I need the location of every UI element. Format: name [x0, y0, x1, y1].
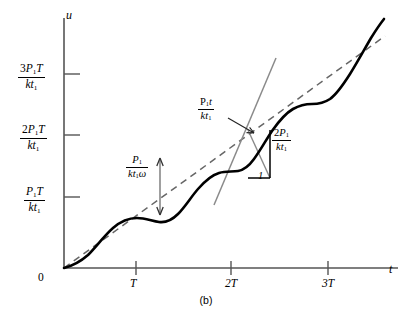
slope-den-sub: 1 [284, 145, 287, 152]
x-tick-label-3T: 3T [322, 277, 334, 289]
asym-den-sub: 1 [208, 114, 211, 121]
tangent-line [214, 58, 276, 205]
y-tick-label-1: P1T kt1 [24, 186, 45, 214]
x-tick-label-T: T [130, 277, 136, 289]
y3-den-sub: 1 [34, 83, 38, 91]
response-curve [64, 19, 384, 268]
y1-num-tail: T [37, 185, 43, 197]
y1-den-sub: 1 [37, 206, 41, 214]
y3-num: P [26, 62, 33, 74]
x-tick-label-2T: 2T [225, 277, 237, 289]
asym-num-tail: t [209, 96, 212, 107]
amplitude-label: P1 kt1ω [126, 155, 148, 180]
y3-num-tail: T [36, 62, 42, 74]
slope-num-sub: 1 [286, 131, 289, 138]
amp-den: kt [128, 168, 136, 179]
y2-num: P [28, 123, 35, 135]
y1-den: kt [29, 201, 37, 213]
slope-run-label: 1 [258, 170, 263, 181]
figure-viscoelastic-response: u t 0 3P1T kt1 2P1T kt1 P1T kt1 T 2T 3T … [0, 0, 412, 316]
y2-num-tail: T [38, 123, 44, 135]
y3-den: kt [25, 78, 33, 90]
origin-label: 0 [38, 271, 44, 283]
plot-svg [0, 0, 412, 316]
amp-den-tail: ω [139, 168, 146, 179]
mean-line-dashed [64, 36, 385, 268]
y2-den-sub: 1 [36, 144, 40, 152]
y-tick-label-3: 3P1T kt1 [18, 63, 45, 91]
y-tick-label-2: 2P1T kt1 [20, 124, 47, 152]
y2-den: kt [27, 139, 35, 151]
asymptote-label: P1t kt1 [198, 97, 214, 122]
amp-num-sub: 1 [139, 158, 142, 165]
y-axis-name: u [66, 8, 72, 23]
figure-caption: (b) [0, 294, 412, 306]
y1-num: P [26, 185, 33, 197]
x-axis-name: t [389, 262, 392, 277]
slope-den: kt [276, 141, 284, 152]
slope-label: 2P1 kt1 [272, 128, 291, 153]
